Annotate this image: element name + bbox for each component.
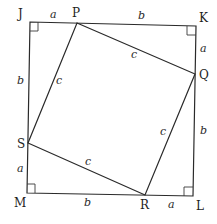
vertex-label-j: J [16, 7, 23, 21]
side-label-rm: b [84, 196, 91, 209]
side-label-sp: c [56, 74, 62, 87]
pythagoras-square-diagram: J P K Q L R M S a b a b a b a b c c c c [0, 0, 217, 224]
vertex-label-r: R [140, 198, 150, 212]
side-label-rs: c [85, 155, 91, 168]
side-label-pq: c [131, 48, 137, 61]
side-label-ql: b [200, 124, 207, 137]
right-angle-marker-l [184, 187, 193, 196]
side-label-jp: a [50, 8, 57, 21]
right-angle-marker-m [27, 184, 35, 193]
vertex-label-q: Q [199, 68, 209, 82]
side-label-kq: a [200, 42, 207, 55]
vertex-label-m: M [14, 196, 26, 210]
side-label-ms: a [17, 162, 24, 175]
right-angle-marker-j [30, 22, 38, 31]
vertex-label-s: S [17, 137, 25, 151]
side-label-sj: b [17, 74, 24, 87]
vertex-label-k: K [199, 11, 209, 25]
side-label-pk: b [138, 9, 145, 22]
inner-square-pqrs [28, 23, 195, 195]
vertex-label-l: L [196, 199, 204, 213]
right-angle-marker-k [187, 26, 196, 35]
side-label-lr: a [168, 198, 175, 211]
side-label-qr: c [160, 125, 166, 138]
outer-square-jklm [27, 22, 196, 196]
vertex-label-p: P [72, 6, 80, 20]
